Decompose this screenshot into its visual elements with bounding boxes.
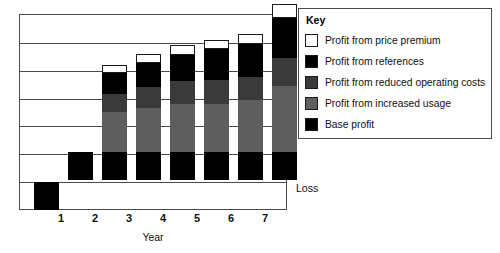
segment-price-premium — [136, 54, 161, 64]
segment-references — [136, 63, 161, 87]
bar-year-4[interactable] — [170, 45, 195, 180]
segment-base-profit — [136, 152, 161, 180]
segment-increased-usage — [102, 112, 127, 152]
legend-item-reduced-operating-costs: Profit from reduced operating costs — [305, 72, 485, 92]
legend-item-base-profit: Base profit — [305, 114, 485, 134]
legend-box: Key Profit from price premium Profit fro… — [298, 8, 492, 139]
segment-reduced-operating-costs — [102, 94, 127, 112]
bar-year-0[interactable] — [34, 182, 59, 210]
legend-label-base-profit: Base profit — [325, 119, 374, 130]
xtick-6: 6 — [216, 212, 246, 224]
segment-base-profit — [204, 152, 229, 180]
loss-annotation: Loss — [296, 182, 318, 194]
segment-increased-usage — [204, 104, 229, 153]
x-axis-label-wrap: Year — [0, 231, 306, 243]
segment-references — [272, 18, 297, 58]
segment-base-profit — [272, 152, 297, 180]
bar-year-5[interactable] — [204, 40, 229, 180]
legend-item-price-premium: Profit from price premium — [305, 30, 485, 50]
segment-base-profit — [238, 152, 263, 180]
segment-references — [204, 49, 229, 80]
bar-year-6[interactable] — [238, 34, 263, 180]
bar-year-3[interactable] — [136, 54, 161, 180]
legend-swatch-references — [305, 55, 318, 68]
bar-group — [20, 15, 286, 209]
xtick-3: 3 — [114, 212, 144, 224]
plot-area — [19, 14, 287, 210]
bar-year-7[interactable] — [272, 4, 297, 180]
xtick-1: 1 — [46, 212, 76, 224]
segment-references — [102, 73, 127, 94]
segment-price-premium — [204, 40, 229, 50]
segment-reduced-operating-costs — [238, 77, 263, 99]
legend-label-increased-usage: Profit from increased usage — [325, 98, 451, 109]
xtick-5: 5 — [182, 212, 212, 224]
legend-item-references: Profit from references — [305, 51, 485, 71]
legend-label-reduced-operating-costs: Profit from reduced operating costs — [325, 77, 485, 88]
segment-base-profit — [170, 152, 195, 180]
segment-price-premium — [238, 34, 263, 44]
legend-swatch-reduced-operating-costs — [305, 76, 318, 89]
segment-reduced-operating-costs — [272, 58, 297, 86]
x-axis-label: Year — [142, 231, 163, 243]
segment-references — [170, 55, 195, 81]
segment-references — [238, 44, 263, 77]
segment-increased-usage — [170, 104, 195, 153]
legend-swatch-increased-usage — [305, 97, 318, 110]
legend-swatch-base-profit — [305, 118, 318, 131]
segment-price-premium — [272, 4, 297, 18]
xtick-4: 4 — [148, 212, 178, 224]
legend-title: Key — [306, 14, 485, 26]
xtick-2: 2 — [80, 212, 110, 224]
legend-label-references: Profit from references — [325, 56, 424, 67]
segment-reduced-operating-costs — [136, 87, 161, 108]
segment-price-premium — [102, 65, 127, 73]
bar-year-2[interactable] — [102, 65, 127, 180]
segment-reduced-operating-costs — [204, 80, 229, 104]
chart-figure: 1 2 3 4 5 6 7 Year Loss Key Profit from … — [0, 0, 500, 253]
segment-reduced-operating-costs — [170, 81, 195, 103]
segment-increased-usage — [272, 86, 297, 153]
segment-base-profit — [34, 182, 59, 210]
segment-base-profit — [68, 152, 93, 180]
segment-increased-usage — [136, 108, 161, 153]
legend-label-price-premium: Profit from price premium — [325, 35, 441, 46]
bar-year-1[interactable] — [68, 152, 93, 180]
segment-base-profit — [102, 152, 127, 180]
legend-swatch-price-premium — [305, 34, 318, 47]
xtick-7: 7 — [250, 212, 280, 224]
segment-price-premium — [170, 45, 195, 55]
segment-increased-usage — [238, 100, 263, 153]
legend-item-increased-usage: Profit from increased usage — [305, 93, 485, 113]
